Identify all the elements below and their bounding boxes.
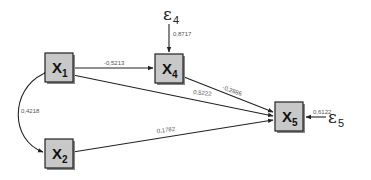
svg-text:ε: ε [328, 107, 337, 127]
svg-text:ε: ε [163, 4, 172, 24]
coef-x1-x4: -0,5213 [104, 60, 125, 66]
error-e5: ε 5 [328, 107, 344, 129]
node-x4: X 4 [155, 54, 185, 85]
svg-text:5: 5 [292, 117, 298, 128]
svg-text:X: X [52, 145, 62, 162]
coef-x2-x5: 0,1782 [156, 126, 176, 134]
error-e4: ε 4 [163, 4, 179, 26]
svg-text:5: 5 [338, 117, 344, 129]
svg-text:2: 2 [62, 154, 68, 165]
svg-text:X: X [52, 59, 62, 76]
coef-x4-x5: -0,2886 [222, 84, 244, 97]
path-diagram: -0,5213 -0,2886 0,5222 0,1782 0,4218 0,8… [0, 0, 371, 180]
coef-x1-x2: 0,4218 [21, 108, 40, 114]
coef-x1-x5: 0,5222 [193, 89, 213, 97]
svg-text:4: 4 [172, 69, 178, 80]
svg-text:1: 1 [62, 68, 68, 79]
node-x5: X 5 [275, 102, 305, 133]
svg-text:4: 4 [173, 14, 179, 26]
coef-e4-x4: 0,8717 [173, 31, 192, 37]
node-x1: X 1 [45, 53, 75, 84]
edge-x2-x5 [73, 120, 273, 152]
svg-text:X: X [162, 60, 172, 77]
node-x2: X 2 [45, 139, 75, 170]
svg-text:X: X [282, 108, 292, 125]
